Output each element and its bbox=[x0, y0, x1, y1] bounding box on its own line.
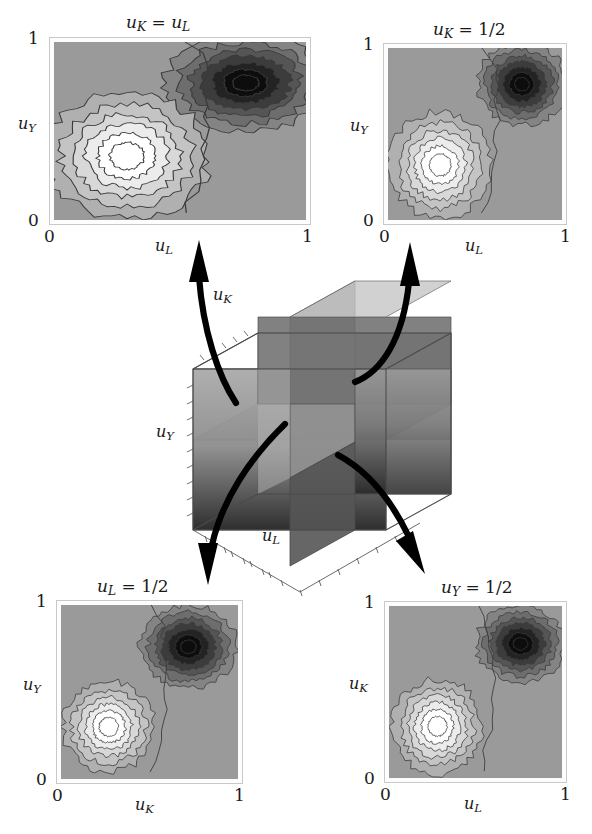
ytick-top-left-1: 1 bbox=[28, 30, 39, 47]
panel-title-bottom-left: uL = 1/2 bbox=[97, 578, 169, 597]
xaxis-label-top-left: uL bbox=[155, 238, 173, 256]
xtick-bottom-left-1: 1 bbox=[234, 787, 245, 804]
xtick-top-left-0: 0 bbox=[44, 228, 55, 245]
cube-axis-uL-line bbox=[193, 523, 420, 592]
panel-title-bottom-right: uY = 1/2 bbox=[441, 579, 512, 598]
yaxis-label-top-right: uY bbox=[350, 118, 368, 136]
xtick-bottom-left-0: 0 bbox=[52, 787, 63, 804]
ytick-top-left-0: 0 bbox=[28, 212, 39, 229]
arrow-to-bottom-right bbox=[338, 455, 425, 574]
contour-surface bbox=[388, 48, 562, 220]
cube-plane-uK-upper bbox=[258, 317, 451, 440]
cube-plane-front-right bbox=[355, 369, 451, 494]
panel-plot-area bbox=[54, 42, 306, 220]
contour-band-dark bbox=[180, 640, 196, 654]
xaxis-label-top-right: uL bbox=[465, 238, 483, 256]
panel-title-top-left: uK = uL bbox=[126, 14, 190, 33]
panel-frame bbox=[385, 602, 566, 782]
contour-panel-top-right bbox=[384, 44, 566, 224]
contour-panel-bottom-right bbox=[385, 602, 566, 782]
contour-panel-bottom-left bbox=[57, 601, 242, 783]
ytick-bottom-right-1: 1 bbox=[364, 594, 375, 611]
cube-axis-label-uL: uL bbox=[262, 528, 280, 546]
panel-title-top-right: uK = 1/2 bbox=[433, 21, 506, 40]
xtick-top-right-0: 0 bbox=[379, 228, 390, 245]
cube-axis-label-uY: uY bbox=[156, 424, 174, 442]
contour-surface bbox=[389, 606, 562, 778]
yaxis-label-top-left: uY bbox=[18, 116, 36, 134]
xtick-top-left-1: 1 bbox=[302, 228, 313, 245]
ytick-top-right-0: 0 bbox=[363, 212, 374, 229]
cube-plane-uK bbox=[193, 369, 386, 530]
xaxis-label-bottom-right: uL bbox=[464, 796, 482, 814]
panel-plot-area bbox=[388, 48, 562, 220]
yaxis-label-bottom-right: uK bbox=[349, 676, 368, 694]
contour-band-light bbox=[99, 717, 119, 737]
arrow-to-bottom-left bbox=[198, 424, 285, 585]
cube-axis-ticks bbox=[187, 331, 397, 596]
contour-surface bbox=[54, 42, 306, 220]
yaxis-label-bottom-left: uY bbox=[23, 677, 41, 695]
xtick-bottom-right-1: 1 bbox=[560, 786, 571, 803]
panel-plot-area bbox=[61, 605, 238, 779]
cube-plane-uY bbox=[193, 404, 451, 440]
contour-panel-top-left bbox=[50, 38, 310, 224]
arrow-to-top-right bbox=[355, 242, 420, 382]
xtick-bottom-right-0: 0 bbox=[380, 786, 391, 803]
ytick-bottom-left-0: 0 bbox=[36, 771, 47, 788]
cube-wireframe-front bbox=[193, 333, 451, 530]
panel-frame bbox=[50, 38, 310, 224]
cube-wireframe-back bbox=[193, 333, 451, 494]
ytick-bottom-left-1: 1 bbox=[36, 593, 47, 610]
panel-frame bbox=[384, 44, 566, 224]
panel-plot-area bbox=[389, 606, 562, 778]
contour-surface bbox=[61, 605, 238, 779]
cube-axis-label-uK: uK bbox=[213, 287, 232, 305]
ytick-bottom-right-0: 0 bbox=[364, 770, 375, 787]
xaxis-label-bottom-left: uK bbox=[135, 797, 154, 815]
cube-plane-uL bbox=[290, 281, 355, 566]
figure-root: uK = uL 1 0 0 1 uY uL uK = 1/2 1 0 0 1 u… bbox=[0, 0, 592, 834]
ytick-top-right-1: 1 bbox=[363, 36, 374, 53]
panel-frame bbox=[57, 601, 242, 783]
cube-plane-front-left bbox=[258, 281, 451, 494]
xtick-top-right-1: 1 bbox=[560, 228, 571, 245]
arrow-to-top-left bbox=[189, 240, 236, 403]
